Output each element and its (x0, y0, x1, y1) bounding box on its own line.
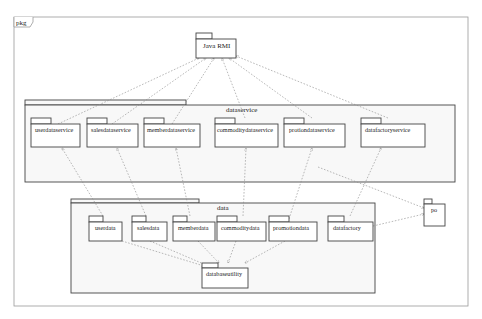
package-label: datafactoryservice (365, 126, 411, 133)
package-label: userdata (95, 224, 116, 231)
frame-label: pkg (16, 19, 27, 27)
package-label: data (217, 204, 230, 212)
package-label: datafactory (333, 224, 362, 231)
package-label: salesdataservice (91, 126, 131, 133)
package-label: memberdataservice (147, 126, 195, 133)
package-label: dataservice (226, 106, 257, 114)
package-label: userdataservice (35, 126, 73, 133)
package-diagram: pkg dataservice data (0, 0, 482, 319)
package-label: protiondataservice (289, 126, 335, 133)
package-label: Java RMI (203, 42, 231, 50)
package-label: po (431, 206, 437, 213)
package-label: memberdata (178, 224, 209, 231)
package-label: salesdata (137, 224, 160, 231)
package-label: databaseutility (206, 270, 243, 277)
package-label: commoditydataservice (217, 126, 273, 133)
package-label: promotiondata (273, 224, 309, 231)
package-label: commoditydata (221, 224, 260, 231)
